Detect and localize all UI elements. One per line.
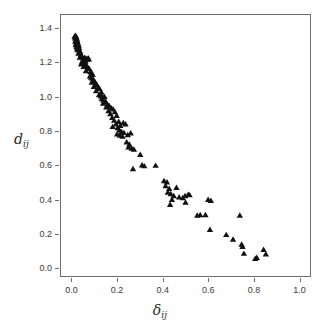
data-point-marker [76, 45, 82, 50]
data-point-marker [94, 82, 100, 87]
data-point-marker [208, 198, 214, 203]
data-point-marker [252, 256, 258, 261]
data-point-marker [90, 72, 96, 77]
data-point-marker [182, 193, 188, 198]
data-point-marker [95, 84, 101, 89]
data-point-marker [73, 42, 79, 47]
data-point-marker [96, 92, 102, 97]
data-point-marker [110, 106, 116, 111]
x-tick-label: 0.0 [65, 286, 78, 295]
x-tick-mark [254, 278, 255, 282]
data-point-marker [128, 130, 134, 135]
data-point-marker [93, 88, 99, 93]
data-point-marker [109, 124, 115, 129]
data-point-marker [161, 178, 167, 183]
data-point-marker [126, 141, 132, 146]
x-tick-mark [300, 278, 301, 282]
y-axis-title-base: d [14, 131, 23, 147]
data-point-marker [82, 58, 88, 63]
data-point-marker [263, 251, 269, 256]
data-point-marker [117, 122, 123, 127]
data-point-marker [123, 139, 129, 144]
data-point-marker [75, 40, 81, 45]
data-point-marker [238, 241, 244, 246]
data-point-marker [186, 192, 192, 197]
data-point-marker [122, 121, 128, 126]
data-point-marker [111, 117, 117, 122]
data-point-marker [79, 59, 85, 64]
y-tick-mark [55, 200, 59, 201]
data-point-marker [180, 195, 186, 200]
data-point-marker [83, 68, 89, 73]
data-point-marker [205, 197, 211, 202]
data-point-marker [76, 47, 82, 52]
data-point-marker [223, 232, 229, 237]
data-point-marker [86, 56, 92, 61]
data-point-marker [106, 103, 112, 108]
data-point-marker [96, 86, 102, 91]
data-point-marker [85, 64, 91, 69]
data-point-marker [202, 212, 208, 217]
y-tick-label: 1.4 [10, 23, 52, 32]
data-point-marker [99, 94, 105, 99]
data-point-marker [92, 81, 98, 86]
data-point-marker [164, 179, 170, 184]
data-point-marker [131, 146, 137, 151]
data-point-marker [113, 121, 119, 126]
data-points-layer [61, 15, 310, 276]
data-point-marker [194, 212, 200, 217]
data-point-marker [87, 73, 93, 78]
data-point-marker [139, 162, 145, 167]
data-point-marker [137, 151, 143, 156]
data-point-marker [167, 202, 173, 207]
y-tick-label: 1.2 [10, 58, 52, 67]
y-tick-label: 0.4 [10, 195, 52, 204]
data-point-marker [165, 189, 171, 194]
data-point-marker [85, 55, 91, 60]
data-point-marker [128, 145, 134, 150]
data-point-marker [116, 119, 122, 124]
data-point-marker [125, 132, 131, 137]
data-point-marker [100, 100, 106, 105]
data-point-marker [74, 47, 80, 52]
data-point-marker [98, 89, 104, 94]
x-tick-label: 0.6 [202, 286, 215, 295]
data-point-marker [176, 194, 182, 199]
data-point-marker [99, 96, 105, 101]
data-point-marker [125, 144, 131, 149]
data-point-marker [80, 60, 86, 65]
data-point-marker [84, 57, 90, 62]
data-point-marker [78, 52, 84, 57]
data-point-marker [72, 38, 78, 43]
data-point-marker [260, 246, 266, 251]
data-point-marker [103, 104, 109, 109]
data-point-marker [118, 129, 124, 134]
x-tick-label: 0.2 [111, 286, 124, 295]
y-tick-mark [55, 62, 59, 63]
data-point-marker [78, 53, 84, 58]
data-point-marker [75, 43, 81, 48]
data-point-marker [166, 186, 172, 191]
y-axis-title-subscript: ij [23, 139, 29, 149]
y-tick-mark [55, 131, 59, 132]
x-tick-mark [208, 278, 209, 282]
x-axis-title: δij [153, 302, 168, 320]
data-point-marker [101, 93, 107, 98]
x-tick-mark [71, 278, 72, 282]
data-point-marker [75, 50, 81, 55]
data-point-marker [114, 113, 120, 118]
data-point-marker [182, 199, 188, 204]
data-point-marker [88, 74, 94, 79]
data-point-marker [87, 69, 93, 74]
data-point-marker [108, 105, 114, 110]
data-point-marker [73, 40, 79, 45]
y-tick-label: 0.0 [10, 264, 52, 273]
data-point-marker [197, 212, 203, 217]
data-point-marker [77, 49, 83, 54]
data-point-marker [78, 61, 84, 66]
data-point-marker [237, 212, 243, 217]
data-point-marker [121, 130, 127, 135]
data-point-marker [74, 45, 80, 50]
y-axis-title: dij [14, 131, 29, 149]
data-point-marker [119, 133, 125, 138]
